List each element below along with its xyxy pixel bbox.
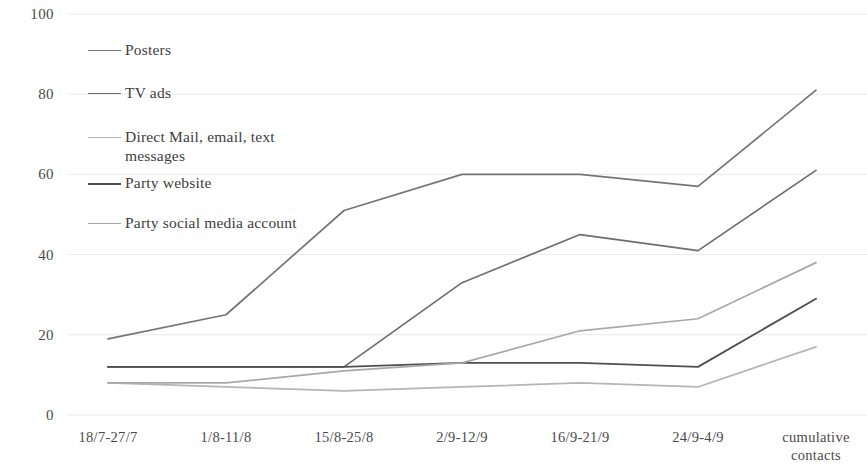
legend-item-party-website[interactable]: Party website bbox=[88, 174, 212, 193]
legend-label: Party website bbox=[125, 174, 212, 193]
legend-item-tv-ads[interactable]: TV ads bbox=[88, 84, 171, 103]
legend-item-direct-mail-email-text-messages[interactable]: Direct Mail, email, text messages bbox=[88, 128, 318, 166]
legend-line-swatch-icon bbox=[88, 93, 121, 94]
x-axis-tick-label: 24/9-4/9 bbox=[672, 428, 724, 446]
line-chart: 020406080100 18/7-27/71/8-11/815/8-25/82… bbox=[0, 0, 867, 464]
legend-label: Direct Mail, email, text messages bbox=[125, 128, 318, 166]
x-axis-tick-label: 15/8-25/8 bbox=[314, 428, 373, 446]
legend-label: Party social media account bbox=[125, 214, 297, 233]
x-axis-tick-label: cumulative contacts bbox=[768, 428, 864, 464]
y-axis-tick-label: 40 bbox=[8, 246, 54, 263]
series-line-party-website bbox=[108, 299, 816, 367]
legend-line-swatch-icon bbox=[88, 183, 121, 185]
legend-item-party-social-media-account[interactable]: Party social media account bbox=[88, 214, 297, 233]
x-axis-tick-label: 2/9-12/9 bbox=[436, 428, 488, 446]
x-axis-tick-label: 16/9-21/9 bbox=[550, 428, 609, 446]
legend-label: Posters bbox=[125, 41, 171, 60]
y-axis-tick-label: 0 bbox=[8, 407, 54, 424]
series-line-party-social-media-account bbox=[108, 263, 816, 383]
series-line-direct-mail-email-text-messages bbox=[108, 347, 816, 391]
y-axis-tick-label: 100 bbox=[8, 6, 54, 23]
legend-line-swatch-icon bbox=[88, 50, 121, 51]
legend-line-swatch-icon bbox=[88, 223, 121, 224]
legend-line-swatch-icon bbox=[88, 137, 121, 138]
y-axis-tick-label: 80 bbox=[8, 86, 54, 103]
x-axis-tick-label: 18/7-27/7 bbox=[78, 428, 137, 446]
series-line-tv-ads bbox=[108, 170, 816, 366]
y-axis-tick-label: 60 bbox=[8, 166, 54, 183]
legend-item-posters[interactable]: Posters bbox=[88, 41, 171, 60]
x-axis-tick-label: 1/8-11/8 bbox=[201, 428, 252, 446]
y-axis-tick-label: 20 bbox=[8, 326, 54, 343]
legend-label: TV ads bbox=[125, 84, 171, 103]
